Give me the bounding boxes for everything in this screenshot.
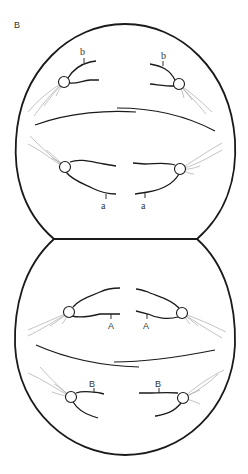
lower-cell-lower-right-pole: B: [139, 370, 224, 416]
label-A-left: A: [108, 321, 114, 331]
midzone-arc-left: [36, 345, 139, 367]
lower-cell-upper-left-pole: A: [28, 288, 120, 336]
centrosome-icon: [175, 164, 186, 175]
dividing-cell-diagram: B b b: [0, 0, 248, 474]
centrosome-icon: [178, 393, 189, 404]
cell-outline: [16, 24, 236, 239]
upper-cell-lower-right-pole: a: [133, 143, 222, 211]
upper-cell-lower-left-pole: a: [28, 136, 116, 211]
centrosome-icon: [64, 307, 75, 318]
label-a-left: a: [101, 200, 106, 211]
label-A-right: A: [143, 321, 149, 331]
centrosome-icon: [174, 79, 185, 90]
lower-cell: A A B: [28, 288, 226, 418]
label-b-right: b: [161, 50, 166, 61]
centrosome-icon: [177, 308, 188, 319]
centrosome-icon: [66, 392, 77, 403]
centrosome-icon: [60, 162, 71, 173]
label-B-right: B: [155, 379, 161, 389]
midzone-arc-left: [35, 111, 136, 125]
centrosome-icon: [59, 77, 70, 88]
upper-left-pole: b: [28, 46, 99, 116]
upper-cell: b b a: [28, 46, 222, 211]
panel-label: B: [14, 20, 20, 30]
label-a-right: a: [141, 200, 146, 211]
daughter-cell-outline: [15, 239, 235, 455]
lower-cell-lower-left-pole: B: [28, 367, 104, 418]
midzone-arc-right: [114, 350, 215, 362]
label-B-left: B: [89, 379, 95, 389]
lower-cell-upper-right-pole: A: [136, 289, 226, 338]
label-b-left: b: [80, 46, 85, 57]
